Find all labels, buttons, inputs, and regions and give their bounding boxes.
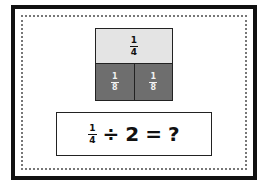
divide-sign: ÷: [103, 122, 120, 146]
eighth-section-right: 1 8: [135, 64, 173, 100]
fraction-one-eighth: 1 8: [135, 64, 173, 100]
quarter-section: 1 4: [96, 29, 172, 64]
eighth-section-left: 1 8: [96, 64, 135, 100]
fraction-bar-model: 1 4 1 8 1 8: [95, 28, 173, 101]
equation-fraction: 1 4: [88, 124, 96, 145]
divisor: 2: [125, 122, 139, 146]
fraction-one-eighth: 1 8: [96, 64, 134, 100]
unknown-result: ?: [168, 122, 180, 146]
fraction-one-quarter: 1 4: [96, 29, 172, 63]
equals-sign: =: [145, 122, 162, 146]
eighths-row: 1 8 1 8: [96, 64, 172, 100]
equation-box: 1 4 ÷ 2 = ?: [56, 112, 212, 156]
